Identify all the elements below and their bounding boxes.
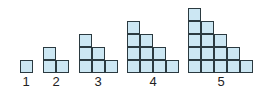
unit-square xyxy=(201,34,214,47)
unit-square xyxy=(227,47,240,60)
unit-square xyxy=(153,47,166,60)
unit-square xyxy=(79,60,92,73)
unit-square xyxy=(43,47,56,60)
figure-label: 2 xyxy=(46,74,66,89)
unit-square xyxy=(92,60,105,73)
unit-square xyxy=(79,47,92,60)
unit-square xyxy=(240,60,253,73)
unit-square xyxy=(127,60,140,73)
unit-square xyxy=(79,34,92,47)
unit-square xyxy=(214,60,227,73)
figure-label: 1 xyxy=(16,74,36,89)
unit-square xyxy=(188,21,201,34)
figure-label: 4 xyxy=(143,74,163,89)
unit-square xyxy=(56,60,69,73)
unit-square xyxy=(227,60,240,73)
unit-square xyxy=(140,34,153,47)
unit-square xyxy=(214,47,227,60)
unit-square xyxy=(188,60,201,73)
unit-square xyxy=(127,21,140,34)
unit-square xyxy=(214,34,227,47)
unit-square xyxy=(153,60,166,73)
figure-label: 3 xyxy=(88,74,108,89)
unit-square xyxy=(201,60,214,73)
unit-square xyxy=(127,47,140,60)
unit-square xyxy=(43,60,56,73)
unit-square xyxy=(201,21,214,34)
unit-square xyxy=(188,34,201,47)
unit-square xyxy=(105,60,118,73)
unit-square xyxy=(20,60,33,73)
unit-square xyxy=(140,47,153,60)
unit-square xyxy=(188,47,201,60)
unit-square xyxy=(92,47,105,60)
unit-square xyxy=(201,47,214,60)
figure-label: 5 xyxy=(211,74,231,89)
unit-square xyxy=(166,60,179,73)
unit-square xyxy=(188,8,201,21)
unit-square xyxy=(140,60,153,73)
unit-square xyxy=(127,34,140,47)
